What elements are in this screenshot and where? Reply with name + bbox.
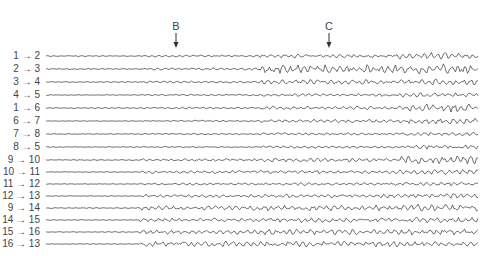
- channel-trace: [46, 156, 478, 164]
- channel-trace: [46, 182, 478, 186]
- channel-trace: [46, 241, 478, 247]
- channel-trace: [46, 104, 478, 112]
- channel-label: 6 → 7: [0, 116, 40, 126]
- channel-label: 15 → 16: [0, 227, 40, 237]
- eeg-traces: [0, 0, 497, 256]
- channel-label: 3 → 4: [0, 77, 40, 87]
- channel-trace: [46, 217, 478, 223]
- marker-c: C: [319, 20, 339, 32]
- channel-label: 1 → 6: [0, 103, 40, 113]
- channel-label: 16 → 13: [0, 239, 40, 249]
- channel-trace: [46, 229, 478, 235]
- channel-label: 2 → 3: [0, 64, 40, 74]
- channel-label: 1 → 2: [0, 51, 40, 61]
- channel-label: 4 → 5: [0, 90, 40, 100]
- marker-b: B: [166, 20, 186, 32]
- channel-trace: [46, 93, 478, 98]
- channel-trace: [46, 79, 478, 85]
- channel-label: 10 → 11: [0, 167, 40, 177]
- channel-trace: [46, 132, 478, 136]
- channel-label: 9 → 10: [0, 155, 40, 165]
- channel-trace: [46, 145, 478, 149]
- channel-label: 11 → 12: [0, 179, 40, 189]
- channel-label: 12 → 13: [0, 191, 40, 201]
- channel-trace: [46, 64, 478, 74]
- channel-trace: [46, 204, 478, 211]
- channel-label: 7 → 8: [0, 129, 40, 139]
- channel-label: 14 → 15: [0, 215, 40, 225]
- channel-trace: [46, 118, 478, 124]
- channel-trace: [46, 194, 478, 198]
- channel-label: 8 → 5: [0, 142, 40, 152]
- channel-trace: [46, 53, 478, 60]
- channel-label: 9 → 14: [0, 203, 40, 213]
- channel-trace: [46, 170, 478, 175]
